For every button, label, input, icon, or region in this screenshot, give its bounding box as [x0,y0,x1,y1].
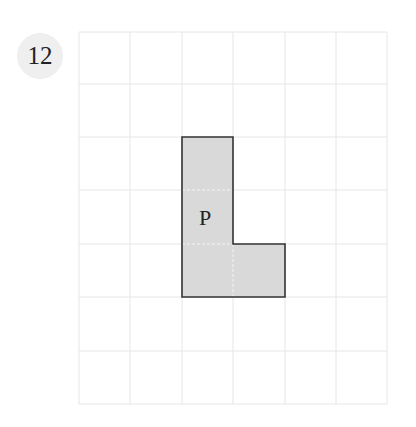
shape-p [182,137,285,297]
shape-label: P [199,205,211,231]
